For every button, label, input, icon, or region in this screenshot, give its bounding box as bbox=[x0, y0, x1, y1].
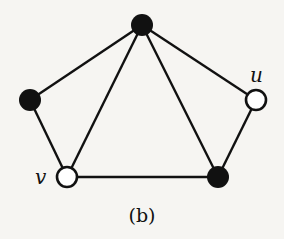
node-bottom-right bbox=[207, 166, 229, 188]
edges bbox=[30, 25, 256, 177]
edge-top-left bbox=[30, 25, 142, 100]
node-top bbox=[131, 14, 153, 36]
edge-top-bottom-right bbox=[142, 25, 218, 177]
edge-bottom-right-u bbox=[218, 100, 256, 177]
figure-caption: (b) bbox=[129, 204, 156, 226]
node-left bbox=[19, 89, 41, 111]
graph-diagram: u v (b) bbox=[0, 0, 284, 239]
node-u bbox=[246, 90, 266, 110]
edge-top-v bbox=[67, 25, 142, 177]
edge-top-u bbox=[142, 25, 256, 100]
node-v bbox=[57, 167, 77, 187]
label-u: u bbox=[250, 63, 263, 87]
label-v: v bbox=[35, 165, 47, 189]
nodes bbox=[19, 14, 266, 188]
